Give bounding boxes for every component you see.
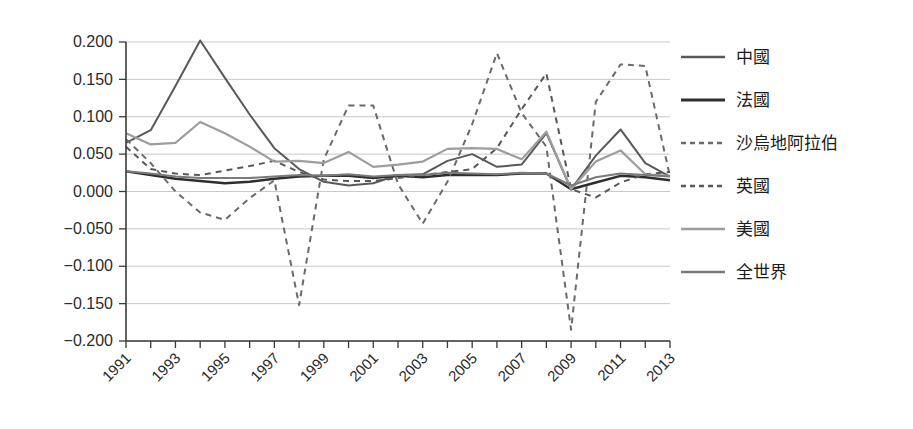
y-tick-label: −0.200 [64,332,113,349]
legend-label-world: 全世界 [736,262,787,282]
legend-label-usa: 美國 [736,219,770,239]
y-tick-label: 0.200 [73,33,113,50]
y-tick-label: 0.050 [73,145,113,162]
line-chart: 0.2000.1500.1000.0500.000−0.050−0.100−0.… [0,0,913,429]
y-tick-label: 0.000 [73,183,113,200]
legend-label-france: 法國 [736,90,770,110]
legend-label-uk: 英國 [736,176,770,196]
legend-label-china: 中國 [736,47,770,67]
chart-figure: 0.2000.1500.1000.0500.000−0.050−0.100−0.… [0,0,913,429]
y-tick-label: 0.100 [73,108,113,125]
y-tick-label: −0.150 [64,295,113,312]
y-tick-label: −0.050 [64,220,113,237]
y-tick-label: 0.150 [73,71,113,88]
legend-label-saudi_arabia: 沙烏地阿拉伯 [736,133,838,153]
y-tick-label: −0.100 [64,257,113,274]
